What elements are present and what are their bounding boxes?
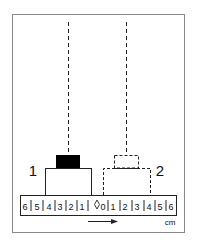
svg-text:6: 6	[22, 202, 27, 212]
svg-text:2: 2	[68, 202, 73, 212]
svg-text:3: 3	[57, 202, 62, 212]
black-block	[56, 155, 80, 168]
unit-label: cm	[165, 218, 176, 227]
position-label-1: 1	[29, 162, 37, 179]
svg-text:6: 6	[168, 202, 173, 212]
svg-text:2: 2	[122, 202, 127, 212]
svg-text:4: 4	[46, 202, 51, 212]
solid-base-box	[46, 169, 92, 196]
position-label-2: 2	[156, 162, 164, 179]
svg-text:3: 3	[134, 202, 139, 212]
dashed-base-box	[104, 169, 151, 196]
arrow-right-icon	[111, 219, 118, 224]
svg-text:0: 0	[100, 202, 105, 212]
svg-text:4: 4	[146, 202, 151, 212]
svg-text:1: 1	[79, 202, 84, 212]
svg-text:1: 1	[110, 202, 115, 212]
diagram-canvas: 1 2 6 5 4 3 2 1 0 1 2 3 4 5 6 cm	[0, 0, 197, 245]
svg-text:5: 5	[34, 202, 39, 212]
svg-text:5: 5	[157, 202, 162, 212]
dashed-block	[115, 156, 139, 169]
